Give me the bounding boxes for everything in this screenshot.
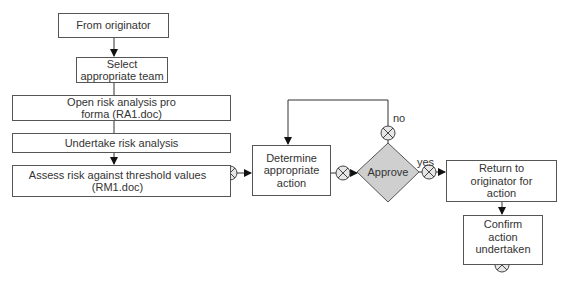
node-label: Undertake risk analysis [65, 137, 179, 150]
label-no: no [393, 112, 405, 124]
gateway-determine-icon [336, 166, 350, 180]
node-determine: Determine appropriate action [252, 145, 331, 196]
node-label: Assess risk against threshold values (RM… [19, 169, 216, 194]
node-approve-label: Approve [360, 166, 416, 178]
node-label: Select appropriate team [79, 58, 165, 83]
node-label: Confirm action undertaken [475, 218, 530, 256]
node-assess: Assess risk against threshold values (RM… [12, 165, 231, 197]
node-select-team: Select appropriate team [76, 57, 168, 83]
node-label: Open risk analysis pro forma (RA1.doc) [63, 96, 180, 121]
node-confirm: Confirm action undertaken [463, 215, 543, 265]
node-label: From originator [76, 19, 151, 32]
gateway-no-icon [381, 126, 395, 140]
node-label: Return to originator for action [459, 162, 544, 200]
node-undertake: Undertake risk analysis [12, 133, 231, 153]
node-open-risk: Open risk analysis pro forma (RA1.doc) [12, 95, 231, 121]
node-label: Determine appropriate action [261, 152, 322, 190]
node-from-originator: From originator [58, 13, 169, 38]
node-return: Return to originator for action [446, 160, 557, 202]
arrow-no-loop [288, 100, 388, 144]
label-yes: yes [417, 156, 434, 168]
